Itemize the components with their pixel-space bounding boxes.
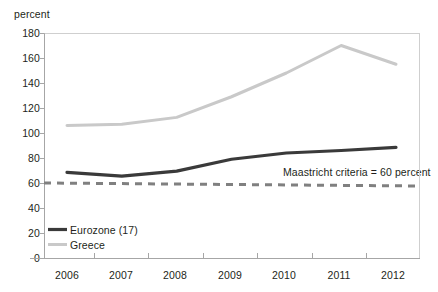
debt-to-gdp-line-chart: percent 180 160 140 120 100 80 60 40 20 … <box>0 0 438 292</box>
y-axis-ticks <box>40 34 45 259</box>
plot-area <box>0 0 438 292</box>
x-axis-ticks <box>95 253 367 258</box>
maastricht-reference-line <box>44 183 420 186</box>
axis-frame <box>30 33 420 259</box>
series-line-greece <box>67 46 396 126</box>
series-line-eurozone <box>67 147 396 176</box>
